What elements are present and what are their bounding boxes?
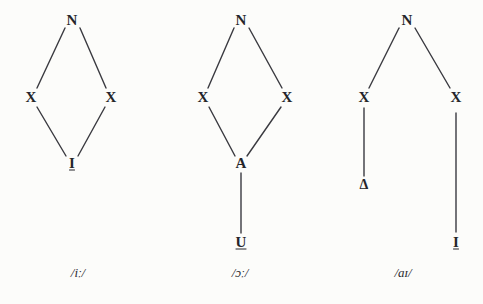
tree-ii-edge-n-to-right-x (80, 28, 106, 88)
tree-ai-nucleus: N (402, 13, 413, 28)
tree-ai-edge-n-to-right-x (415, 28, 450, 88)
tree-ii-skeletal-point-left: X (26, 90, 37, 105)
tree-ii-edge-right-x-to-element (78, 107, 105, 156)
tree-ii-element-i: I (69, 156, 75, 171)
tree-oo-element-a: A (236, 156, 247, 171)
tree-ii-edge-left-x-to-element (37, 107, 66, 156)
tree-oo-skeletal-point-right: X (282, 90, 293, 105)
tree-oo-nucleus: N (236, 13, 247, 28)
tree-ai-element-i: I (453, 235, 459, 250)
tree-oo-edge-n-to-left-x (208, 28, 234, 88)
tree-ii-edge-n-to-left-x (37, 28, 65, 88)
tree-ai-edge-n-to-left-x (369, 28, 399, 88)
tree-oo-skeletal-point-left: X (198, 90, 209, 105)
tree-ai-element-cold-vowel: Δ (360, 178, 369, 192)
tree-oo-edge-left-x-to-a (209, 107, 235, 156)
phonology-diagram: NXXINXXAUNXXΔI /iː//ɔː//aɪ/ (0, 0, 483, 304)
tree-ii-caption: /iː/ (71, 266, 85, 279)
tree-ii-nucleus: N (67, 13, 78, 28)
tree-oo-caption: /ɔː/ (232, 266, 249, 279)
tree-ai-skeletal-point-right: X (451, 90, 462, 105)
tree-ai-caption: /aɪ/ (394, 266, 411, 279)
tree-oo-edge-n-to-right-x (249, 28, 282, 88)
tree-ai-skeletal-point-left: X (359, 90, 370, 105)
tree-ii-skeletal-point-right: X (106, 90, 117, 105)
tree-oo-element-u: U (236, 235, 247, 250)
tree-oo-edge-right-x-to-a (247, 107, 281, 156)
tree-branch-lines (0, 0, 483, 304)
